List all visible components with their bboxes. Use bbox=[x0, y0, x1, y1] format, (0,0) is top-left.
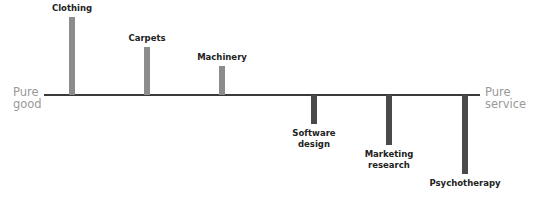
label-line1: Carpets bbox=[128, 33, 165, 44]
label-line1: Marketing bbox=[365, 149, 414, 160]
label-machinery: Machinery bbox=[197, 52, 247, 63]
label-line1: Clothing bbox=[52, 3, 92, 14]
left-end-label: Pure good bbox=[13, 86, 42, 110]
right-end-label: Pure service bbox=[485, 86, 526, 110]
bar-software bbox=[311, 95, 317, 124]
label-marketing: Marketingresearch bbox=[365, 149, 414, 171]
label-line2: research bbox=[365, 160, 414, 171]
label-line1: Software bbox=[292, 128, 335, 139]
label-line1: Psychotherapy bbox=[429, 178, 500, 189]
label-line1: Machinery bbox=[197, 52, 247, 63]
label-psychotherapy: Psychotherapy bbox=[429, 178, 500, 189]
bar-carpets bbox=[144, 47, 150, 95]
right-end-line2: service bbox=[485, 98, 526, 110]
bar-marketing bbox=[386, 95, 392, 145]
bar-psychotherapy bbox=[462, 95, 468, 174]
bar-clothing bbox=[69, 17, 75, 95]
label-clothing: Clothing bbox=[52, 3, 92, 14]
left-end-line2: good bbox=[13, 98, 42, 110]
continuum-axis bbox=[44, 94, 480, 96]
label-line2: design bbox=[292, 139, 335, 150]
label-software: Softwaredesign bbox=[292, 128, 335, 150]
label-carpets: Carpets bbox=[128, 33, 165, 44]
bar-machinery bbox=[219, 66, 225, 95]
